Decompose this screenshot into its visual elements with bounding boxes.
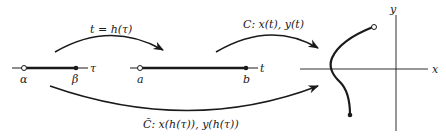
curve-closed-endpoint	[348, 113, 353, 118]
xy-plane: x y	[300, 3, 439, 131]
t-interval: a b t	[130, 62, 265, 86]
alpha-label: α	[20, 73, 28, 86]
composite-label: C̃: x(h(τ)), y(h(τ))	[143, 118, 239, 131]
reparametrization-diagram: α β τ a b t t = h(τ) C: x(t), y(t) C̃: x…	[0, 0, 446, 139]
beta-label: β	[71, 73, 78, 86]
alpha-open-endpoint	[22, 66, 27, 71]
curve-label: C: x(t), y(t)	[243, 18, 304, 31]
y-axis-label: y	[389, 3, 397, 16]
curve-open-endpoint	[372, 25, 377, 30]
reparam-arrow: t = h(τ)	[55, 23, 163, 52]
beta-closed-endpoint	[74, 66, 79, 71]
tau-interval: α β τ	[12, 62, 97, 86]
composite-arrow: C̃: x(h(τ)), y(h(τ))	[50, 86, 318, 131]
a-open-endpoint	[138, 66, 143, 71]
a-label: a	[137, 73, 144, 86]
curve-arrow: C: x(t), y(t)	[216, 18, 318, 52]
parametric-curve	[331, 27, 373, 115]
b-closed-endpoint	[244, 66, 249, 71]
x-axis-label: x	[432, 63, 439, 76]
reparam-label: t = h(τ)	[90, 23, 132, 36]
t-axis-label: t	[260, 62, 265, 75]
b-label: b	[243, 73, 250, 86]
tau-axis-label: τ	[90, 62, 97, 75]
